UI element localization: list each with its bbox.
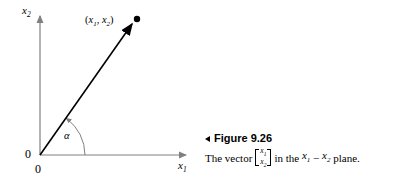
x-axis-label: x1	[178, 160, 187, 174]
caption-text-prefix: The vector	[205, 150, 252, 166]
vector-endpoint-dot	[134, 16, 140, 22]
figure-caption: Figure 9.26 The vector x1 x2 in the x1 −…	[205, 132, 401, 168]
bracket-right	[267, 149, 271, 166]
caption-title-row: Figure 9.26	[205, 132, 401, 145]
caption-var-x1: x1	[299, 147, 313, 168]
matrix-entry-row2: x2	[260, 158, 266, 169]
vector-diagram: x2 x1 0 0 (x1, x2) α	[0, 0, 200, 184]
caption-body-row: The vector x1 x2 in the x1 − x2 plane.	[205, 147, 401, 168]
caption-var-x2: x2	[319, 147, 333, 168]
caption-text-middle: in the	[274, 150, 299, 166]
origin-label-vertical: 0	[25, 148, 31, 160]
caption-text-suffix: plane.	[333, 150, 360, 166]
point-coordinate-label: (x1, x2)	[85, 15, 114, 28]
origin-label-horizontal: 0	[35, 163, 41, 175]
column-vector-matrix: x1 x2	[255, 150, 271, 166]
matrix-entry-row1: x1	[260, 147, 266, 158]
figure-container: x2 x1 0 0 (x1, x2) α Figure 9.26 The vec…	[0, 0, 404, 184]
angle-alpha-label: α	[64, 131, 70, 142]
figure-number: Figure 9.26	[214, 132, 272, 145]
left-triangle-icon	[205, 136, 210, 142]
matrix-entries: x1 x2	[259, 147, 267, 169]
y-axis-label: x2	[22, 5, 31, 19]
vector-arrow	[40, 24, 132, 155]
